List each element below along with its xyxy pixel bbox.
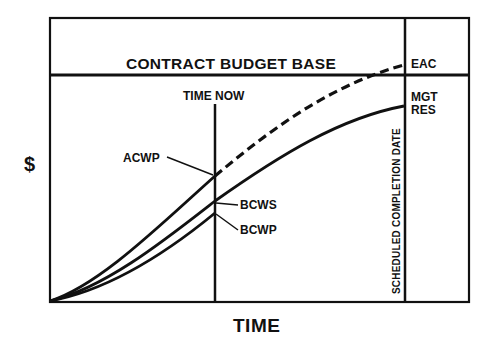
contract-budget-base-label: CONTRACT BUDGET BASE: [126, 56, 336, 72]
eac-label: EAC: [411, 58, 436, 70]
acwp-leader: [167, 157, 213, 175]
bcws-label: BCWS: [240, 199, 277, 211]
y-axis-label: $: [24, 154, 35, 174]
mgt-res-label-line2: RES: [411, 104, 436, 116]
mgt-res-label-line1: MGT: [411, 91, 438, 103]
x-axis-label: TIME: [233, 316, 280, 335]
acwp-label: ACWP: [123, 152, 160, 164]
earned-value-diagram: [0, 0, 488, 353]
eac-projection-curve: [215, 65, 404, 176]
scheduled-completion-label: SCHEDULED COMPLETION DATE: [392, 128, 402, 294]
bcws-leader: [216, 203, 238, 205]
bcwp-curve: [50, 213, 215, 301]
bcwp-label: BCWP: [240, 224, 277, 236]
bcwp-leader: [216, 214, 238, 230]
time-now-label: TIME NOW: [183, 90, 244, 102]
acwp-curve: [50, 176, 215, 301]
